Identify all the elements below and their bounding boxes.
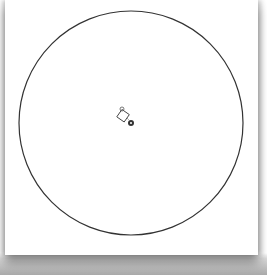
rotate-shape-cursor-icon bbox=[117, 107, 134, 126]
drawing-canvas[interactable] bbox=[0, 0, 267, 275]
screenshot-stage bbox=[0, 0, 267, 275]
